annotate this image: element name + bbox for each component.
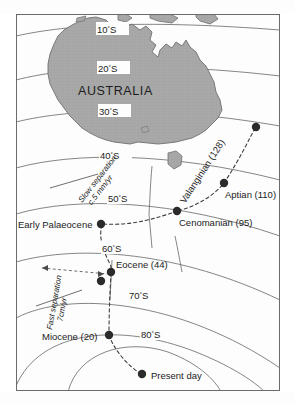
latitude-label-20: 20°S [97,61,130,74]
svg-text:60°S: 60°S [102,243,121,254]
latitude-label-30: 30°S [98,104,131,117]
marker-present-day[interactable] [138,370,146,378]
latitude-50-value: 50 [108,193,119,204]
marker-eocene-secondary[interactable] [97,277,105,285]
latitude-80-value: 80 [141,329,152,340]
label-aptian: Aptian (110) [225,189,276,200]
svg-text:30°S: 30°S [99,106,118,117]
marker-early-palaeocene[interactable] [97,220,105,228]
latitude-30-value: 30 [99,106,110,117]
label-early-palaeocene: Early Palaeocene [18,219,92,230]
label-present-day: Present day [151,370,202,381]
latitude-50-suffix: S [121,193,127,204]
palaeolatitude-map-figure: 10°S 20°S 30°S 40°S [0,0,295,405]
latitude-20-value: 20 [98,63,109,74]
svg-text:10°S: 10°S [97,24,116,35]
country-label: AUSTRALIA [78,84,153,98]
marker-eocene[interactable] [107,268,115,276]
latitude-30-suffix: S [112,106,118,117]
latitude-label-70: 70°S [128,288,161,301]
marker-valanginian[interactable] [252,123,260,131]
latitude-label-80: 80°S [140,327,173,340]
svg-text:80°S: 80°S [141,329,160,340]
map-svg: 10°S 20°S 30°S 40°S [0,0,295,405]
label-miocene: Miocene (20) [42,331,97,342]
marker-cenomanian[interactable] [173,207,181,215]
latitude-60-value: 60 [102,243,113,254]
latitude-60-suffix: S [115,243,121,254]
svg-text:20°S: 20°S [98,63,117,74]
latitude-70-value: 70 [129,290,140,301]
label-cenomanian: Cenomanian (95) [179,217,252,228]
latitude-10-suffix: S [110,24,116,35]
label-eocene: Eocene (44) [116,259,168,270]
latitude-10-value: 10 [97,24,108,35]
latitude-label-60: 60°S [101,241,134,254]
latitude-70-suffix: S [142,290,148,301]
latitude-label-50: 50°S [107,191,140,204]
svg-text:70°S: 70°S [129,290,148,301]
marker-miocene[interactable] [105,331,113,339]
latitude-label-10: 10°S [96,22,129,35]
marker-aptian[interactable] [220,179,228,187]
latitude-20-suffix: S [111,63,117,74]
latitude-80-suffix: S [154,329,160,340]
svg-text:50°S: 50°S [108,193,127,204]
